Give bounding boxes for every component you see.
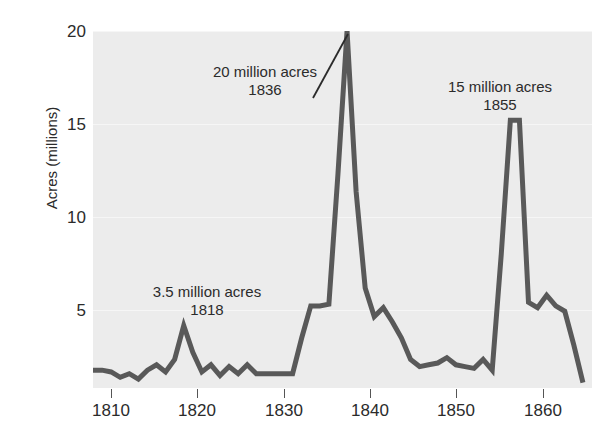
- x-tick-label-1850: 1850: [421, 402, 491, 420]
- x-tick-mark-1840: [370, 389, 371, 398]
- annotation-1855-year: 1855: [425, 96, 575, 114]
- x-tick-mark-1820: [197, 389, 198, 398]
- x-tick-mark-1810: [111, 389, 112, 398]
- annotation-1818-value: 3.5 million acres: [122, 283, 292, 301]
- x-tick-mark-1850: [456, 389, 457, 398]
- annotation-1836-year: 1836: [190, 81, 340, 99]
- x-tick-label-1820: 1820: [162, 402, 232, 420]
- x-tick-mark-1860: [543, 389, 544, 398]
- annotation-1836-value: 20 million acres: [190, 63, 340, 81]
- x-tick-mark-1830: [284, 389, 285, 398]
- annotation-1818-year: 1818: [122, 301, 292, 319]
- x-tick-label-1830: 1830: [249, 402, 319, 420]
- x-tick-label-1810: 1810: [76, 402, 146, 420]
- annotation-1855: 15 million acres 1855: [425, 78, 575, 114]
- annotation-1836: 20 million acres 1836: [190, 63, 340, 99]
- annotation-1818: 3.5 million acres 1818: [122, 283, 292, 319]
- chart-figure: Acres (millions) 20 15 10 5 1810 1820 18…: [0, 0, 595, 448]
- x-tick-label-1840: 1840: [335, 402, 405, 420]
- x-tick-label-1860: 1860: [508, 402, 578, 420]
- annotation-1855-value: 15 million acres: [425, 78, 575, 96]
